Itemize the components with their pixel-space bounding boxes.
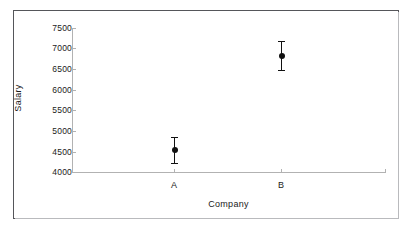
y-tick-label-7000: 7000 xyxy=(30,44,72,53)
y-tick-mark-7000 xyxy=(72,48,76,49)
y-tick-4500: 4500 xyxy=(22,148,72,157)
y-tick-mark-5500 xyxy=(72,110,76,111)
error-bar-cap-lower-a xyxy=(171,163,178,164)
y-tick-4000: 4000 xyxy=(22,168,72,177)
errorbar-chart: 7500 7000 6500 6000 5500 5000 4500 4000 … xyxy=(0,0,415,235)
y-tick-6000: 6000 xyxy=(22,86,72,95)
y-tick-label-4000: 4000 xyxy=(30,168,72,177)
y-tick-7500: 7500 xyxy=(22,24,72,33)
y-tick-5000: 5000 xyxy=(22,127,72,136)
x-tick-label-b: B xyxy=(261,180,301,190)
error-bar-cap-upper-b xyxy=(278,41,285,42)
x-axis-line xyxy=(72,172,385,173)
error-bar-cap-lower-b xyxy=(278,70,285,71)
error-bar-cap-upper-a xyxy=(171,137,178,138)
y-tick-5500: 5500 xyxy=(22,106,72,115)
y-tick-label-6000: 6000 xyxy=(30,86,72,95)
x-tick-mark-end xyxy=(385,169,386,173)
y-axis-title: Salary xyxy=(13,68,23,128)
y-tick-mark-6500 xyxy=(72,69,76,70)
y-tick-label-7500: 7500 xyxy=(30,24,72,33)
x-tick-label-a: A xyxy=(154,180,194,190)
y-tick-mark-5000 xyxy=(72,131,76,132)
y-tick-label-4500: 4500 xyxy=(30,148,72,157)
marker-dot-a xyxy=(172,147,178,153)
x-tick-mark-a xyxy=(174,169,175,173)
y-tick-6500: 6500 xyxy=(22,65,72,74)
y-tick-label-6500: 6500 xyxy=(30,65,72,74)
x-tick-mark-b xyxy=(281,169,282,173)
y-tick-mark-4000 xyxy=(72,172,76,173)
y-tick-label-5500: 5500 xyxy=(30,106,72,115)
y-tick-mark-7500 xyxy=(72,28,76,29)
marker-dot-b xyxy=(279,53,285,59)
y-tick-mark-6000 xyxy=(72,90,76,91)
x-axis-title: Company xyxy=(72,199,385,209)
y-tick-label-5000: 5000 xyxy=(30,127,72,136)
y-tick-7000: 7000 xyxy=(22,44,72,53)
y-tick-mark-4500 xyxy=(72,152,76,153)
